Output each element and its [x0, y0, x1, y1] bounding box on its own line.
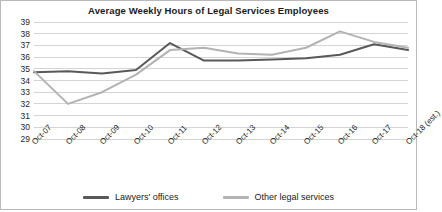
legend-label: Lawyers' offices: [115, 192, 179, 202]
y-axis-tick-label: 34: [21, 76, 30, 86]
y-axis-tick-label: 36: [21, 52, 30, 62]
series-line: [34, 31, 408, 104]
chart-title: Average Weekly Hours of Legal Services E…: [1, 5, 416, 16]
legend-item[interactable]: Other legal services: [223, 192, 335, 202]
y-axis-tick-label: 31: [21, 111, 30, 121]
x-axis: Oct-07Oct-08Oct-09Oct-10Oct-11Oct-12Oct-…: [34, 140, 408, 186]
y-axis-tick-label: 39: [21, 17, 30, 27]
y-axis-tick-label: 29: [21, 134, 30, 144]
y-axis-tick-label: 38: [21, 29, 30, 39]
plot-area: [34, 22, 408, 139]
legend-item[interactable]: Lawyers' offices: [83, 192, 179, 202]
plot-svg: [34, 22, 408, 139]
x-axis-tick-label: Oct-18 (est.): [404, 109, 442, 147]
legend-swatch: [223, 196, 249, 199]
legend-swatch: [83, 196, 109, 199]
y-axis-tick-label: 35: [21, 64, 30, 74]
y-axis-tick-label: 30: [21, 122, 30, 132]
legend-label: Other legal services: [255, 192, 335, 202]
y-axis-tick-label: 33: [21, 87, 30, 97]
y-axis: 3938373635343332313029: [1, 22, 30, 139]
chart-legend: Lawyers' officesOther legal services: [1, 192, 416, 202]
chart-container: Average Weekly Hours of Legal Services E…: [0, 0, 417, 210]
y-axis-tick-label: 32: [21, 99, 30, 109]
y-axis-tick-label: 37: [21, 40, 30, 50]
